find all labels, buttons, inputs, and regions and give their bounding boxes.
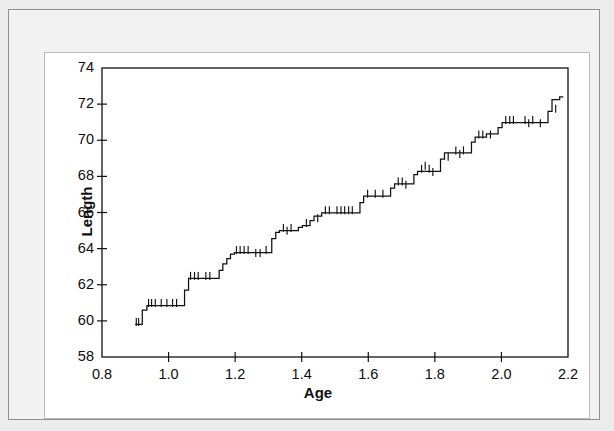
- figure-panel: 586062646668707274 0.81.01.21.41.61.82.0…: [44, 52, 590, 419]
- figure-outer-frame: 586062646668707274 0.81.01.21.41.61.82.0…: [8, 9, 600, 420]
- figure-root: 586062646668707274 0.81.01.21.41.61.82.0…: [0, 0, 614, 431]
- axis-ticks: [97, 104, 501, 362]
- data-series-step-line: [135, 97, 563, 325]
- step-line: [135, 97, 563, 325]
- censor-tick-marks: [136, 105, 555, 326]
- step-chart-svg: [45, 53, 591, 420]
- plot-area: 586062646668707274 0.81.01.21.41.61.82.0…: [45, 53, 591, 420]
